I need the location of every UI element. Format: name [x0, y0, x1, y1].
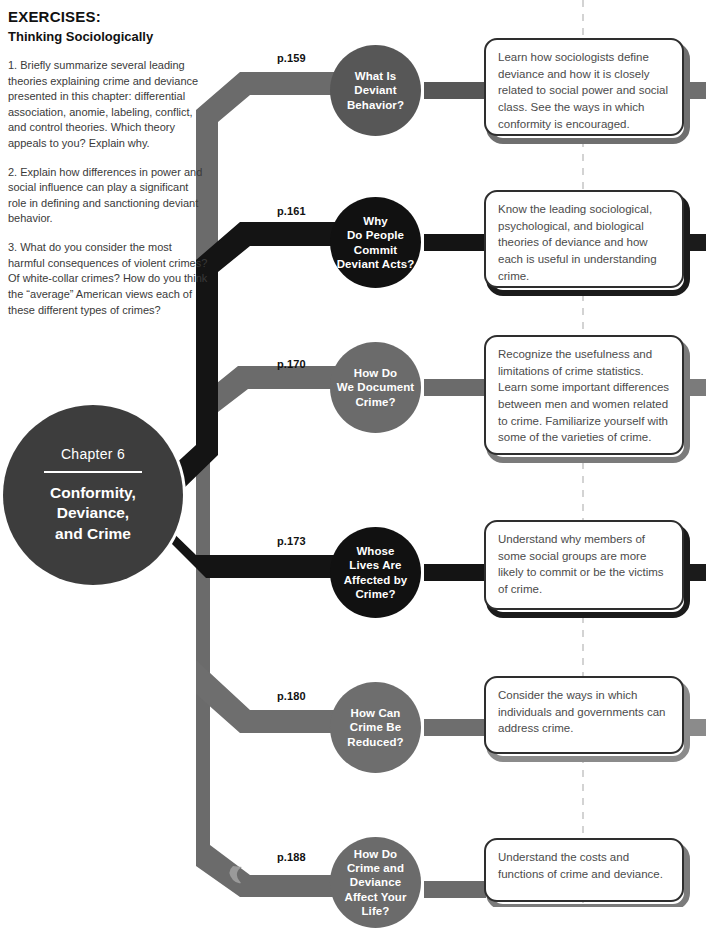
node-label-1: What Is Deviant Behavior? — [341, 69, 410, 112]
chapter-divider — [44, 471, 142, 473]
outcome-text-5: Consider the ways in which individuals a… — [486, 678, 682, 745]
outcome-text-3: Recognize the usefulness and limitations… — [486, 337, 682, 454]
exercise-item-3: 3. What do you consider the most harmful… — [8, 240, 208, 318]
connector-node-5 — [196, 660, 336, 733]
chapter-number: Chapter 6 — [61, 446, 125, 462]
page-label-6: p.188 — [277, 851, 306, 863]
chapter-title: Conformity, Deviance, and Crime — [50, 483, 136, 543]
node-circle-1[interactable]: What Is Deviant Behavior? — [330, 45, 421, 136]
connector-node-6 — [155, 455, 336, 897]
page-label-3: p.170 — [277, 358, 306, 370]
exercises-block: EXERCISES: Thinking Sociologically 1. Br… — [8, 8, 208, 318]
outcome-text-2: Know the leading sociological, psycholog… — [486, 192, 682, 292]
page-label-2: p.161 — [277, 205, 306, 217]
box-shadows — [489, 45, 687, 907]
outcome-box-1[interactable]: Learn how sociologists define deviance a… — [484, 38, 684, 136]
node-label-5: How Can Crime Be Reduced? — [341, 706, 409, 749]
node-circle-2[interactable]: Why Do People Commit Deviant Acts? — [330, 197, 421, 288]
node-circle-4[interactable]: Whose Lives Are Affected by Crime? — [330, 527, 421, 618]
exercises-title: EXERCISES: — [8, 8, 208, 27]
node-label-4: Whose Lives Are Affected by Crime? — [338, 544, 414, 602]
outcome-box-3[interactable]: Recognize the usefulness and limitations… — [484, 335, 684, 455]
exercise-item-2: 2. Explain how differences in power and … — [8, 165, 208, 227]
node-label-2: Why Do People Commit Deviant Acts? — [331, 214, 421, 272]
outcome-text-6: Understand the costs and functions of cr… — [486, 840, 682, 890]
page-label-4: p.173 — [277, 535, 306, 547]
node-circle-3[interactable]: How Do We Document Crime? — [330, 342, 421, 433]
outcome-box-2[interactable]: Know the leading sociological, psycholog… — [484, 190, 684, 288]
outcome-text-4: Understand why members of some social gr… — [486, 522, 682, 606]
node-circle-5[interactable]: How Can Crime Be Reduced? — [330, 682, 421, 773]
exercises-subtitle: Thinking Sociologically — [8, 29, 208, 45]
outcome-box-5[interactable]: Consider the ways in which individuals a… — [484, 676, 684, 754]
node-circle-6[interactable]: How Do Crime and Deviance Affect Your Li… — [330, 837, 421, 928]
page-label-5: p.180 — [277, 690, 306, 702]
outcome-text-1: Learn how sociologists define deviance a… — [486, 40, 682, 140]
connector-node-4 — [160, 520, 336, 578]
node-label-6: How Do Crime and Deviance Affect Your Li… — [338, 847, 412, 919]
page-label-1: p.159 — [277, 52, 306, 64]
chapter-circle[interactable]: Chapter 6 Conformity, Deviance, and Crim… — [3, 405, 183, 585]
outcome-box-4[interactable]: Understand why members of some social gr… — [484, 520, 684, 610]
node-label-3: How Do We Document Crime? — [331, 366, 421, 409]
exercise-item-1: 1. Briefly summarize several leading the… — [8, 58, 208, 152]
outcome-box-6[interactable]: Understand the costs and functions of cr… — [484, 838, 684, 902]
